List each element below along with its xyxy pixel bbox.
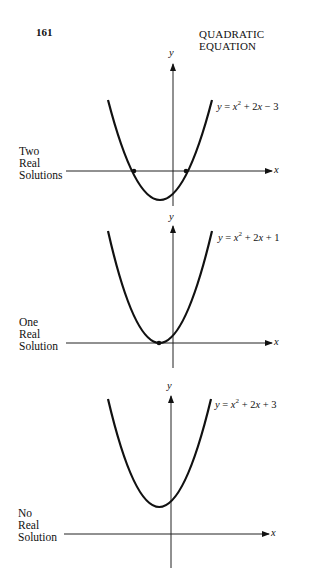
equation-label: y = x2 + 2x − 3 xyxy=(217,99,279,112)
x-axis-label: x xyxy=(274,336,279,347)
equation-label: y = x2 + 2x + 3 xyxy=(215,397,277,410)
parabola-curve xyxy=(108,231,212,343)
graph-one-solution xyxy=(66,226,272,368)
equation-label: y = x2 + 2x + 1 xyxy=(218,230,280,243)
parabola-curve xyxy=(108,100,212,200)
x-axis-label: x xyxy=(271,527,276,538)
graph-two-solutions xyxy=(66,64,272,206)
solution-count-label: OneRealSolution xyxy=(19,316,58,352)
root-point xyxy=(132,169,137,174)
solution-count-label: TwoRealSolutions xyxy=(19,145,62,181)
root-point xyxy=(184,169,189,174)
y-axis-label: y xyxy=(169,47,174,58)
y-axis-label: y xyxy=(167,380,172,391)
parabola-figures xyxy=(0,0,324,588)
root-point xyxy=(157,341,162,346)
parabola-curve xyxy=(108,399,211,507)
graph-no-solution xyxy=(64,396,269,568)
y-axis-label: y xyxy=(169,211,174,222)
x-axis-label: x xyxy=(274,164,279,175)
solution-count-label: NoRealSolution xyxy=(18,507,57,543)
